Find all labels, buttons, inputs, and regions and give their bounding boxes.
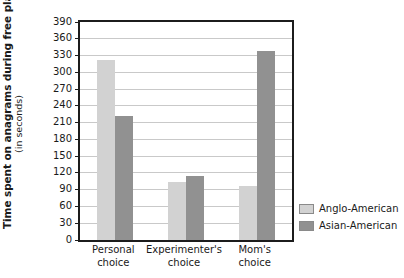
bar-asian-american	[115, 116, 133, 240]
y-axis-tick-label: 60	[46, 201, 72, 211]
chart-legend: Anglo-AmericanAsian-American	[299, 201, 403, 235]
y-axis-tick	[75, 22, 80, 23]
y-axis-tick-label: 300	[46, 67, 72, 77]
y-axis-tick-label: 120	[46, 167, 72, 177]
x-axis-category-label-line: Mom's	[205, 244, 305, 257]
y-axis-tick	[75, 189, 80, 190]
y-axis-tick-label: 30	[46, 218, 72, 228]
y-axis-tick-label: 330	[46, 50, 72, 60]
y-axis-tick	[75, 38, 80, 39]
legend-swatch-icon	[299, 221, 314, 231]
y-axis-tick-label: 150	[46, 151, 72, 161]
y-axis-tick	[75, 122, 80, 123]
y-axis-tick	[75, 55, 80, 56]
y-axis-tick-label: 180	[46, 134, 72, 144]
y-axis-tick-label: 210	[46, 117, 72, 127]
bar-asian-american	[257, 51, 275, 240]
y-axis-tick	[75, 172, 80, 173]
x-axis-category-label-line: choice	[205, 257, 305, 270]
legend-swatch-icon	[299, 204, 314, 214]
y-axis-tick	[75, 223, 80, 224]
y-axis-tick-label: 270	[46, 84, 72, 94]
legend-label: Asian-American	[319, 221, 397, 231]
y-axis-tick	[75, 206, 80, 207]
bar-anglo-american	[97, 60, 115, 240]
bar-anglo-american	[168, 182, 186, 240]
y-axis-tick	[75, 89, 80, 90]
y-axis-tick-label: 240	[46, 100, 72, 110]
y-axis-tick	[75, 72, 80, 73]
bar-chart-figure: Time spent on anagrams during free play …	[0, 0, 404, 278]
x-axis-category-label: Mom'schoice	[205, 244, 305, 269]
legend-item[interactable]: Anglo-American	[299, 201, 403, 216]
y-axis-tick-label: 90	[46, 184, 72, 194]
y-axis-tick	[75, 156, 80, 157]
legend-label: Anglo-American	[319, 204, 399, 214]
y-axis-tick	[75, 105, 80, 106]
y-axis-tick	[75, 139, 80, 140]
bar-anglo-american	[239, 186, 257, 240]
plot-inner	[80, 22, 292, 240]
y-axis-tick-label: 390	[46, 17, 72, 27]
bar-asian-american	[186, 176, 204, 240]
y-axis-tick	[75, 240, 80, 241]
y-axis-tick-label: 360	[46, 33, 72, 43]
y-axis-title-main: Time spent on anagrams during free play	[1, 19, 13, 229]
y-axis-title-units: (in seconds)	[13, 19, 24, 229]
y-axis-tick-label: 0	[46, 235, 72, 245]
legend-item[interactable]: Asian-American	[299, 218, 403, 233]
plot-area: 0306090120150180210240270300330360390	[78, 20, 294, 242]
gridline	[80, 38, 292, 39]
